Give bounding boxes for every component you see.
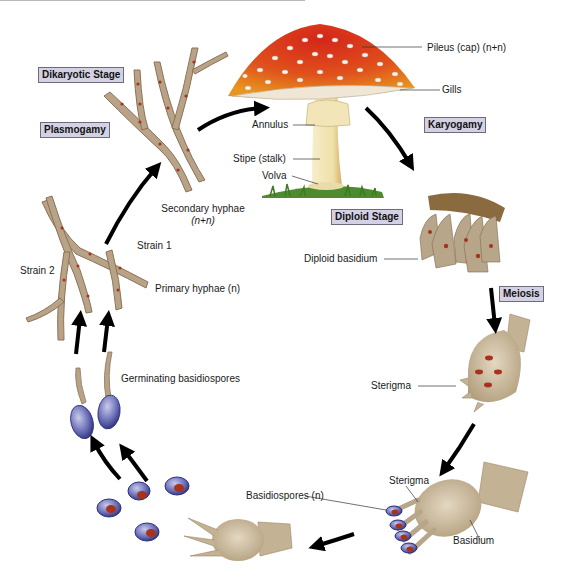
sterigma-bottom-label: Sterigma (389, 475, 429, 487)
gills-label: Gills (442, 84, 461, 96)
pileus-label: Pileus (cap) (n+n) (427, 42, 506, 54)
mushroom-life-cycle-diagram: Dikaryotic Stage Plasmogamy Karyogamy Di… (0, 0, 561, 577)
germinating-basidiospores-label: Germinating basidiospores (121, 373, 240, 385)
basidium-label: Basidium (453, 535, 494, 547)
secondary-hyphae-label: Secondary hyphae (n+n) (157, 203, 249, 227)
basidiospores (97, 477, 189, 541)
meiosis-label: Meiosis (499, 286, 544, 302)
strain1-label: Strain 1 (137, 240, 171, 252)
volva-label: Volva (262, 170, 286, 182)
sterigma-top-label: Sterigma (371, 380, 411, 392)
germinating-basidiospores (67, 352, 122, 441)
diploid-stage-label: Diploid Stage (331, 209, 403, 225)
plasmogamy-label: Plasmogamy (40, 122, 110, 138)
dikaryotic-stage-label: Dikaryotic Stage (38, 67, 124, 83)
empty-basidium (184, 518, 292, 561)
diploid-basidia-cluster (420, 193, 505, 272)
basidium-meiosis (460, 314, 530, 412)
primary-hyphae-label: Primary hyphae (n) (155, 283, 240, 295)
karyogamy-label: Karyogamy (424, 117, 486, 133)
basidiospores-label: Basidiospores (n) (246, 490, 324, 502)
stipe-label: Stipe (stalk) (233, 153, 286, 165)
diploid-basidium-label: Diploid basidium (304, 253, 377, 265)
annulus-label: Annulus (252, 119, 288, 131)
strain2-label: Strain 2 (20, 265, 54, 277)
